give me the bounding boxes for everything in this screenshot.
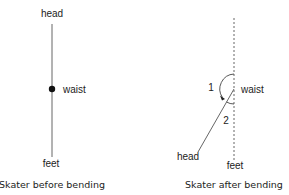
waist-dot (49, 86, 55, 92)
angle-1-arc (220, 74, 234, 98)
panel-before-bending: head waist feet Skater before bending (0, 8, 105, 190)
label-feet-before: feet (43, 158, 60, 169)
label-head-before: head (41, 8, 63, 19)
angle-2-arc (227, 102, 235, 104)
label-angle-1: 1 (208, 82, 214, 93)
label-head-after: head (177, 151, 199, 162)
label-angle-2: 2 (223, 115, 229, 126)
label-feet-after: feet (227, 160, 244, 171)
label-waist-before: waist (62, 84, 86, 95)
angle-1-arrowhead-icon (220, 96, 225, 101)
label-waist-after: waist (240, 84, 264, 95)
caption-before: Skater before bending (0, 179, 105, 190)
panel-after-bending: 1 2 waist head feet Skater after bending (177, 18, 283, 190)
skater-diagram: head waist feet Skater before bending 1 … (0, 0, 289, 195)
caption-after: Skater after bending (185, 179, 283, 190)
